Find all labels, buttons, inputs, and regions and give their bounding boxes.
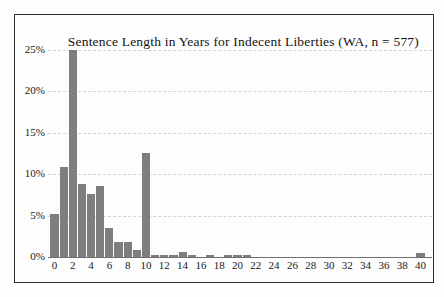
- x-tick-label: 6: [99, 260, 119, 271]
- x-tick-label: 2: [63, 260, 83, 271]
- gridline-15%: [48, 133, 432, 134]
- x-tick-label: 36: [374, 260, 394, 271]
- x-tick-label: 20: [228, 260, 248, 271]
- bar-year-1: [60, 167, 68, 257]
- x-tick-label: 0: [45, 260, 65, 271]
- x-tick-label: 18: [209, 260, 229, 271]
- bar-year-8: [124, 242, 132, 257]
- gridline-20%: [48, 91, 432, 92]
- x-tick-label: 8: [118, 260, 138, 271]
- y-tick-label: 10%: [15, 168, 45, 179]
- x-tick-label: 26: [282, 260, 302, 271]
- chart-title: Sentence Length in Years for Indecent Li…: [68, 34, 419, 50]
- x-tick-label: 38: [392, 260, 412, 271]
- bar-year-6: [105, 228, 113, 257]
- bar-year-5: [96, 186, 104, 257]
- x-tick-label: 10: [136, 260, 156, 271]
- x-tick-label: 24: [264, 260, 284, 271]
- x-tick-label: 32: [337, 260, 357, 271]
- bar-year-10: [142, 153, 150, 257]
- chart-image: Sentence Length in Years for Indecent Li…: [0, 0, 444, 297]
- gridline-10%: [48, 174, 432, 175]
- bar-year-7: [114, 242, 122, 257]
- x-tick-label: 22: [246, 260, 266, 271]
- x-tick-label: 12: [154, 260, 174, 271]
- bar-year-4: [87, 194, 95, 257]
- x-tick-label: 28: [301, 260, 321, 271]
- gridline-25%: [48, 50, 432, 51]
- y-tick-label: 15%: [15, 127, 45, 138]
- bar-year-3: [78, 184, 86, 257]
- x-tick-label: 34: [356, 260, 376, 271]
- bar-year-9: [133, 250, 141, 257]
- chart-frame: Sentence Length in Years for Indecent Li…: [14, 14, 434, 283]
- x-axis-line: [48, 257, 432, 258]
- y-tick-label: 20%: [15, 85, 45, 96]
- x-tick-label: 16: [191, 260, 211, 271]
- x-tick-label: 30: [319, 260, 339, 271]
- x-tick-label: 14: [173, 260, 193, 271]
- bar-year-0: [50, 214, 58, 257]
- y-tick-label: 0%: [15, 251, 45, 262]
- y-tick-label: 25%: [15, 44, 45, 55]
- bar-year-2: [69, 50, 77, 258]
- x-tick-label: 40: [411, 260, 431, 271]
- gridline-5%: [48, 216, 432, 217]
- y-tick-label: 5%: [15, 210, 45, 221]
- x-tick-label: 4: [81, 260, 101, 271]
